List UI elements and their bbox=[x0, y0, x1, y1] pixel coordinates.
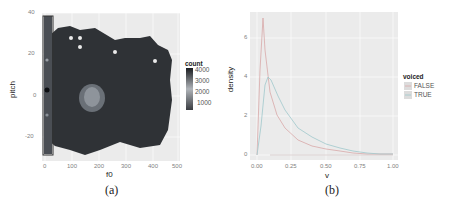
x-tick: 0.00 bbox=[251, 163, 263, 169]
legend-title: voiced bbox=[403, 73, 424, 80]
colorbar bbox=[186, 68, 193, 110]
y-tick: 4 bbox=[244, 73, 247, 79]
legend-label-false: FALSE bbox=[414, 82, 434, 89]
hexbin-panel: 40 20 0 -20 0 100 200 300 400 500 f0 pit… bbox=[0, 0, 230, 180]
legend-tick: 2000 bbox=[195, 88, 209, 95]
x-tick: 0.50 bbox=[320, 163, 332, 169]
x-tick: 1.00 bbox=[387, 163, 399, 169]
legend-tick: 4000 bbox=[195, 66, 209, 73]
x-axis-title: f0 bbox=[106, 170, 113, 179]
x-axis-title: v bbox=[325, 171, 329, 180]
x-tick: 500 bbox=[172, 163, 182, 169]
density-panel: 0 2 4 6 0.00 0.25 0.50 0.75 1.00 v densi… bbox=[230, 0, 451, 180]
y-tick: -20 bbox=[25, 133, 34, 139]
y-tick: 2 bbox=[244, 112, 247, 118]
legend-label-true: TRUE bbox=[414, 91, 432, 98]
x-tick: 0.25 bbox=[285, 163, 297, 169]
y-axis-title: pitch bbox=[8, 81, 17, 98]
x-tick: 400 bbox=[148, 163, 158, 169]
density-plot-svg bbox=[230, 0, 451, 180]
x-tick: 200 bbox=[94, 163, 104, 169]
y-tick: 20 bbox=[28, 50, 35, 56]
series-false bbox=[257, 18, 393, 155]
x-tick: 300 bbox=[121, 163, 131, 169]
legend-tick: 3000 bbox=[195, 77, 209, 84]
y-axis-title: density bbox=[226, 67, 235, 92]
y-tick: 0 bbox=[244, 151, 247, 157]
y-tick: 6 bbox=[244, 34, 247, 40]
x-tick: 100 bbox=[67, 163, 77, 169]
legend-tick: 1000 bbox=[197, 99, 211, 106]
caption-b: (b) bbox=[325, 183, 339, 198]
y-tick: 40 bbox=[28, 9, 35, 15]
x-tick: 0 bbox=[43, 163, 46, 169]
y-tick: 0 bbox=[33, 92, 36, 98]
x-tick: 0.75 bbox=[354, 163, 366, 169]
caption-a: (a) bbox=[105, 183, 118, 198]
